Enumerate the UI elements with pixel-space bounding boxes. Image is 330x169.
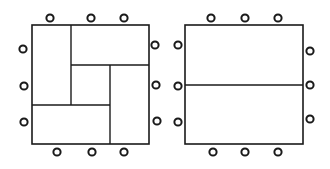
right-arrangement — [174, 14, 313, 155]
seat-icon — [274, 148, 281, 155]
seat-icon — [46, 14, 53, 21]
seat-icon — [241, 148, 248, 155]
seat-icon — [88, 148, 95, 155]
seat-icon — [87, 14, 94, 21]
left-arrangement — [19, 14, 160, 155]
seat-icon — [306, 81, 313, 88]
seat-icon — [153, 117, 160, 124]
seat-icon — [120, 148, 127, 155]
seat-icon — [20, 82, 27, 89]
seat-icon — [241, 14, 248, 21]
seat-icon — [19, 45, 26, 52]
seat-icon — [209, 148, 216, 155]
diagram-canvas — [0, 0, 330, 169]
seat-icon — [174, 41, 181, 48]
seat-icon — [306, 115, 313, 122]
table-outline — [32, 25, 149, 144]
seat-icon — [306, 47, 313, 54]
seat-icon — [152, 81, 159, 88]
seat-icon — [207, 14, 214, 21]
seat-icon — [53, 148, 60, 155]
seat-icon — [174, 118, 181, 125]
seat-icon — [174, 82, 181, 89]
seat-icon — [151, 41, 158, 48]
seat-icon — [20, 118, 27, 125]
seat-icon — [274, 14, 281, 21]
seat-icon — [120, 14, 127, 21]
